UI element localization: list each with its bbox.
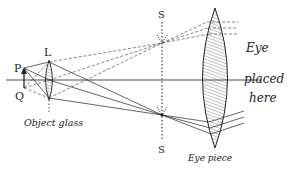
label-eye-piece: Eye piece [187, 153, 232, 163]
label-here: here [249, 91, 277, 105]
label-l: L [44, 46, 52, 59]
image-point [160, 113, 163, 116]
label-eye: Eye [245, 41, 269, 55]
diagram-canvas: P Q L Object glass S S Eye piece Eye pla… [0, 0, 295, 171]
label-p: P [14, 62, 22, 75]
label-q: Q [15, 90, 24, 103]
label-s-bottom: S [158, 144, 165, 155]
optical-diagram: P Q L Object glass S S Eye piece Eye pla… [0, 0, 295, 171]
label-s-top: S [158, 9, 165, 20]
label-placed: placed [244, 72, 284, 86]
label-object-glass: Object glass [24, 117, 83, 128]
